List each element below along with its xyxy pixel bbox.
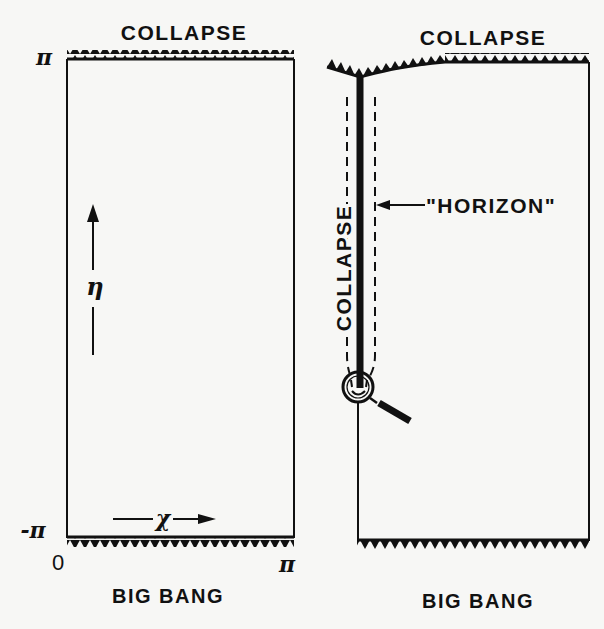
arrow-left-icon — [376, 200, 390, 210]
eta-top-tick: π — [35, 44, 53, 70]
eta-bottom-tick: -π — [20, 517, 46, 543]
right-top-label: COLLAPSE — [420, 26, 546, 49]
eta-axis-symbol: η — [86, 272, 103, 301]
vertical-collapse-label: COLLAPSE — [332, 205, 355, 331]
right-diagram: COLLAPSE — [327, 26, 589, 612]
left-bottom-label: BIG BANG — [112, 585, 224, 607]
horizon-label: "HORIZON" — [426, 194, 556, 217]
horizon-pointer-arrow — [376, 200, 425, 210]
chi-left-tick: 0 — [52, 550, 64, 575]
horizon-dashed-right — [369, 97, 375, 378]
left-top-label: COLLAPSE — [121, 21, 247, 44]
chi-axis-symbol: χ — [154, 505, 172, 531]
right-collapse-singularity-teeth — [327, 53, 589, 77]
right-bottom-label: BIG BANG — [422, 590, 534, 612]
figure-canvas: COLLAPSE π -π 0 π η χ BIG BANG — [0, 0, 604, 629]
magnifying-glass-smile-icon — [343, 372, 410, 421]
chi-right-tick: π — [278, 551, 296, 577]
right-bigbang-singularity-teeth — [357, 541, 589, 550]
arrow-right-icon — [198, 514, 216, 524]
left-collapse-singularity-teeth — [67, 50, 294, 59]
left-diagram: COLLAPSE π -π 0 π η χ BIG BANG — [20, 21, 296, 607]
arrow-up-icon — [87, 204, 99, 222]
left-bigbang-singularity-teeth — [67, 538, 294, 547]
